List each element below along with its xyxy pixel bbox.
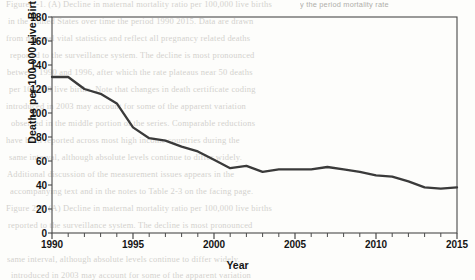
- y-axis-ticks: [48, 17, 52, 233]
- x-axis-minor-ticks: [68, 233, 441, 237]
- data-series-line: [52, 77, 457, 189]
- x-axis-major-ticks: [52, 233, 457, 239]
- plot-frame: [52, 17, 457, 233]
